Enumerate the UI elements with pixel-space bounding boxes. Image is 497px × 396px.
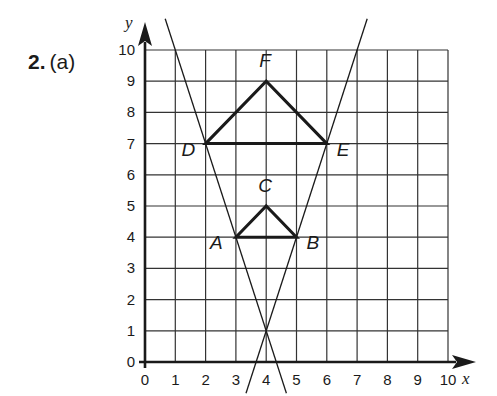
y-tick-label: 4 [127, 228, 135, 245]
x-tick-label: 0 [141, 371, 149, 388]
y-tick-label: 5 [127, 197, 135, 214]
x-tick-label: 3 [232, 371, 240, 388]
x-tick-label: 7 [353, 371, 361, 388]
y-tick-label: 10 [118, 41, 135, 58]
point-label-C: C [258, 175, 272, 196]
x-tick-label: 4 [262, 371, 270, 388]
y-axis-label: y [123, 13, 133, 32]
tick-labels: 012345678910012345678910 [118, 41, 456, 388]
x-tick-label: 10 [440, 371, 457, 388]
y-tick-label: 1 [127, 322, 135, 339]
y-tick-label: 9 [127, 72, 135, 89]
point-label-F: F [259, 50, 272, 71]
y-tick-label: 0 [127, 353, 135, 370]
point-label-B: B [307, 232, 320, 253]
axes: xy [123, 13, 476, 388]
point-label-D: D [182, 139, 196, 160]
x-tick-label: 5 [292, 371, 300, 388]
point-label-E: E [337, 139, 350, 160]
point-label-A: A [209, 232, 223, 253]
x-axis-label: x [461, 369, 470, 388]
coordinate-diagram: xy 012345678910012345678910 ABCDEF [0, 0, 497, 396]
x-tick-label: 9 [414, 371, 422, 388]
x-tick-label: 6 [323, 371, 331, 388]
y-tick-label: 2 [127, 291, 135, 308]
x-tick-label: 2 [201, 371, 209, 388]
x-tick-label: 8 [383, 371, 391, 388]
x-tick-label: 1 [171, 371, 179, 388]
y-tick-label: 3 [127, 259, 135, 276]
y-tick-label: 7 [127, 135, 135, 152]
y-tick-label: 6 [127, 166, 135, 183]
y-tick-label: 8 [127, 103, 135, 120]
